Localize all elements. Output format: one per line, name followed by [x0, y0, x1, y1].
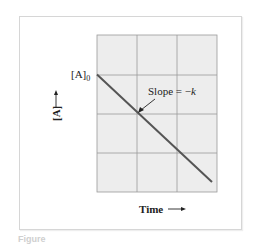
y-axis-arrow-icon — [54, 90, 58, 108]
initial-concentration-label: [A]0 — [71, 68, 90, 83]
y-axis-label: [A] — [50, 106, 62, 121]
figure-caption: Figure — [18, 234, 46, 244]
x-axis-arrow-icon — [168, 207, 186, 211]
plot-area — [97, 35, 217, 192]
x-axis-label: Time — [139, 203, 163, 215]
svg-text:[A]: [A] — [50, 106, 62, 121]
slope-annotation: Slope = −k — [148, 85, 197, 97]
